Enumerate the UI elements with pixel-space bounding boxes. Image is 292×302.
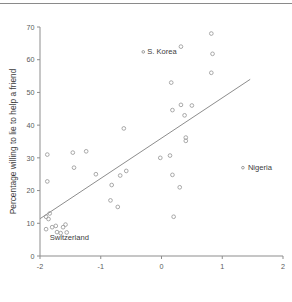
data-point [64, 223, 68, 227]
data-point [116, 205, 120, 209]
y-tick-label: 70 [27, 23, 35, 32]
data-point [211, 52, 215, 56]
scatter-plot-figure: 010203040506070-2-1012Percentage willing… [0, 0, 292, 302]
data-point [50, 225, 54, 229]
annotation-label: Nigeria [248, 163, 273, 172]
y-axis-title: Percentage willing to lie to help a frie… [8, 68, 18, 214]
data-point [209, 32, 213, 36]
data-point [168, 154, 172, 158]
data-point [190, 104, 194, 108]
data-point [45, 153, 49, 157]
y-tick-label: 30 [27, 154, 35, 163]
y-tick-label: 20 [27, 186, 35, 195]
x-tick-label: -2 [37, 262, 43, 271]
regression-line [40, 79, 250, 218]
data-point [179, 45, 183, 49]
data-point [172, 215, 176, 219]
data-point [158, 156, 162, 160]
data-point [178, 185, 182, 189]
data-point [44, 227, 48, 231]
data-point [183, 113, 187, 117]
data-point [122, 127, 126, 131]
data-point [72, 166, 76, 170]
data-point [169, 81, 173, 85]
y-tick-label: 50 [27, 88, 35, 97]
data-point [47, 217, 51, 221]
y-tick-label: 10 [27, 219, 35, 228]
data-point [179, 103, 183, 107]
data-point [84, 149, 88, 153]
plot-canvas: 010203040506070-2-1012Percentage willing… [0, 0, 292, 302]
x-tick-label: 1 [220, 262, 224, 271]
y-tick-label: 60 [27, 55, 35, 64]
annotation-label: Switzerland [50, 233, 89, 242]
data-point [124, 169, 128, 173]
data-point [54, 224, 58, 228]
annotated-data-point [242, 166, 245, 169]
data-point [171, 173, 175, 177]
x-tick-label: 0 [160, 262, 164, 271]
data-point [109, 199, 113, 203]
data-point [110, 183, 114, 187]
data-point [45, 180, 49, 184]
data-point [94, 172, 98, 176]
data-point [171, 108, 175, 112]
x-tick-label: -1 [98, 262, 104, 271]
data-point [118, 174, 122, 178]
annotated-data-point [142, 51, 145, 54]
data-point [209, 71, 213, 75]
y-tick-label: 40 [27, 121, 35, 130]
x-tick-label: 2 [281, 262, 285, 271]
data-point [71, 151, 75, 155]
y-tick-label: 0 [31, 252, 35, 261]
annotation-label: S. Korea [147, 47, 177, 56]
